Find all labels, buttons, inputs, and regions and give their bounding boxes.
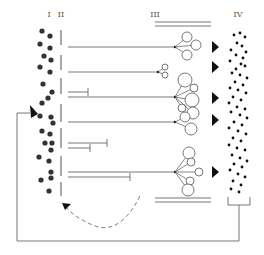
branch-line — [175, 45, 191, 47]
diagram-canvas: I II III IV — [0, 0, 264, 255]
vesicle-circle — [183, 147, 195, 159]
cell-dot — [46, 158, 51, 163]
cell-dot — [48, 147, 53, 152]
cell-dot — [40, 81, 45, 86]
particle-dot — [239, 32, 242, 35]
particle-dot — [244, 36, 247, 39]
branch-line — [175, 158, 185, 172]
particle-dot — [236, 106, 239, 109]
particle-dot — [240, 140, 243, 143]
cell-dot — [37, 64, 42, 69]
branch-line — [158, 69, 163, 72]
cell-dot — [41, 53, 46, 58]
particle-dot — [228, 144, 231, 147]
particle-dot — [231, 72, 234, 75]
triangle-arrow-icon — [212, 114, 219, 126]
branch-line — [175, 40, 183, 47]
triangle-arrow-icon — [212, 41, 219, 53]
particle-dot — [244, 176, 247, 179]
dashed-curved-arrow — [62, 196, 140, 228]
cell-dot — [47, 69, 52, 74]
particle-dot — [235, 54, 238, 57]
vesicle-circle — [180, 112, 190, 122]
particle-dot — [245, 92, 248, 95]
triangle-arrow-icon — [212, 92, 219, 104]
cell-dot — [47, 131, 52, 136]
particle-dot — [233, 121, 236, 124]
particle-dot — [244, 65, 247, 68]
particle-dot — [233, 34, 236, 37]
diagram-svg — [0, 0, 264, 255]
branch-groups — [157, 32, 203, 196]
cell-dot — [38, 177, 43, 182]
particle-dot — [229, 169, 232, 172]
cell-dot — [36, 154, 41, 159]
cell-dot — [39, 100, 44, 105]
particle-dot — [245, 51, 248, 54]
cell-dot — [39, 28, 44, 33]
particle-dot — [235, 68, 238, 71]
cell-dot — [39, 128, 44, 133]
particle-dot — [241, 166, 244, 169]
cell-dot — [37, 113, 42, 118]
cell-dot — [47, 45, 52, 50]
particle-dot — [244, 108, 247, 111]
particle-dot — [237, 130, 240, 133]
branch-line — [175, 164, 188, 172]
column-4-particles — [228, 32, 249, 194]
branch-line — [175, 172, 187, 179]
signal-lines — [68, 47, 175, 181]
branch-line — [175, 122, 186, 127]
cell-dot — [49, 140, 54, 145]
particle-dot — [246, 160, 249, 163]
triangle-arrow-icon — [212, 166, 219, 178]
cell-dot — [45, 95, 50, 100]
vesicle-circle — [178, 73, 192, 87]
vesicle-circle — [182, 50, 192, 60]
particle-dot — [230, 111, 233, 114]
vesicle-circle — [182, 184, 194, 196]
particle-dot — [228, 102, 231, 105]
cell-dot — [46, 188, 51, 193]
particle-dot — [231, 154, 234, 157]
vesicle-circle — [162, 72, 168, 78]
particle-dot — [240, 63, 243, 66]
cell-dot — [48, 169, 53, 174]
bracket — [228, 197, 250, 205]
particle-dot — [232, 96, 235, 99]
dashed-arrowhead-icon — [62, 203, 71, 210]
cell-dot — [50, 120, 55, 125]
particle-dot — [238, 191, 241, 194]
bracket-line — [228, 197, 250, 205]
vesicle-circle — [178, 104, 186, 112]
particle-dot — [240, 184, 243, 187]
column-1-cells — [36, 28, 55, 193]
particle-dot — [239, 157, 242, 160]
release-arrowheads — [212, 41, 219, 178]
vesicle-circle — [187, 158, 195, 166]
particle-dot — [242, 84, 245, 87]
vesicle-circle — [182, 32, 192, 42]
particle-dot — [236, 42, 239, 45]
dashed-curve — [66, 196, 140, 228]
vesicle-circle — [162, 64, 168, 70]
particle-dot — [245, 133, 248, 136]
particle-dot — [244, 149, 247, 152]
particle-dot — [230, 49, 233, 52]
particle-dot — [240, 99, 243, 102]
vesicle-circle — [185, 93, 199, 107]
branch-line — [175, 172, 184, 185]
cell-dot — [47, 33, 52, 38]
particle-dot — [229, 87, 232, 90]
vesicle-circle — [190, 84, 198, 92]
cell-dot — [48, 175, 53, 180]
particle-dot — [230, 188, 233, 191]
particle-dot — [241, 124, 244, 127]
vesicle-circle — [191, 40, 201, 50]
arrowhead-icon — [30, 105, 38, 118]
cell-dot — [48, 114, 53, 119]
particle-dot — [246, 77, 249, 80]
particle-dot — [232, 137, 235, 140]
triangle-arrow-icon — [212, 61, 219, 73]
particle-dot — [246, 117, 249, 120]
